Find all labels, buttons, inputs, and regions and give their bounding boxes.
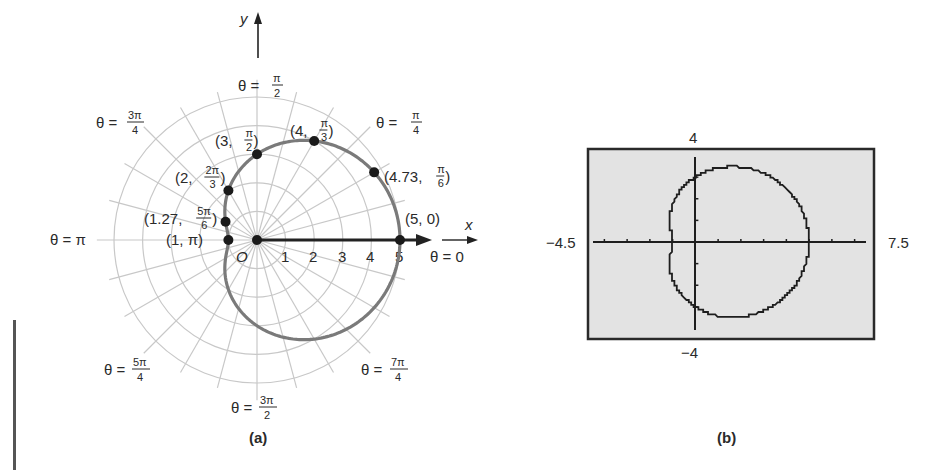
- svg-text:3π: 3π: [128, 109, 142, 121]
- polar-grid-ray: [257, 200, 405, 240]
- polar-grid-ray: [257, 163, 390, 240]
- tick-1: 1: [281, 248, 289, 265]
- svg-text:): ): [445, 168, 450, 185]
- svg-text:θ =: θ =: [361, 361, 383, 378]
- svg-text:θ =: θ =: [376, 114, 398, 131]
- svg-text:7π: 7π: [391, 356, 405, 368]
- point-label: (4,: [290, 122, 308, 139]
- x-axis-label: x: [464, 216, 473, 233]
- figure-svg: y x 1 2 3 4 5 O (5, 0)(4.73, π6)(4, π3)(…: [0, 0, 936, 470]
- point-marker: [221, 217, 231, 227]
- calc-ymin-label: −4: [681, 344, 698, 361]
- margin-bar: [13, 320, 16, 470]
- x-axis-arrowhead: [467, 236, 478, 244]
- caption-b: (b): [717, 429, 736, 446]
- origin-label: O: [236, 248, 248, 265]
- calc-xmax-label: 7.5: [888, 234, 909, 251]
- point-marker: [223, 235, 233, 245]
- svg-text:): ): [212, 210, 217, 227]
- angle-label-pi-over-4: θ = π 4: [376, 109, 422, 136]
- svg-text:π: π: [437, 163, 445, 175]
- svg-text:6: 6: [201, 219, 207, 231]
- svg-text:2: 2: [246, 141, 252, 153]
- point-label: (5, 0): [405, 210, 440, 227]
- svg-text:5π: 5π: [133, 356, 147, 368]
- tick-3: 3: [338, 248, 346, 265]
- angle-label-3pi-over-2: θ = 3π 2: [231, 394, 277, 421]
- calculator-screen: [588, 149, 874, 339]
- polar-graph-panel: y x 1 2 3 4 5 O (5, 0)(4.73, π6)(4, π3)(…: [50, 0, 478, 446]
- svg-text:): ): [220, 169, 225, 186]
- polar-grid-ray: [257, 92, 297, 240]
- figure: y x 1 2 3 4 5 O (5, 0)(4.73, π6)(4, π3)(…: [0, 0, 936, 470]
- point-label: (1, π): [166, 231, 203, 248]
- point-marker: [395, 235, 405, 245]
- plotted-point: (3, π2): [215, 127, 262, 159]
- svg-text:3: 3: [209, 178, 215, 190]
- svg-text:2: 2: [274, 87, 280, 99]
- plotted-point: (1.27, 5π6): [144, 205, 231, 231]
- polar-grid-ray: [257, 240, 297, 388]
- angle-label-pi-over-2: θ = π 2: [238, 72, 283, 99]
- svg-text:3π: 3π: [260, 394, 274, 406]
- pole-point: [252, 235, 262, 245]
- calc-ymax-label: 4: [689, 129, 697, 146]
- point-label: (2,: [175, 169, 193, 186]
- svg-text:π: π: [245, 127, 253, 139]
- tick-4: 4: [366, 248, 374, 265]
- point-marker: [223, 185, 233, 195]
- svg-text:4: 4: [132, 124, 138, 136]
- plotted-point: (2, 2π3): [175, 164, 233, 195]
- polar-axis-arrowhead: [416, 234, 432, 246]
- plotted-point: (4.73, π6): [369, 163, 450, 189]
- point-marker: [369, 167, 379, 177]
- point-marker: [309, 136, 319, 146]
- svg-text:π: π: [412, 109, 420, 121]
- caption-a: (a): [249, 429, 267, 446]
- angle-label-3pi-over-4: θ = 3π 4: [96, 109, 144, 136]
- svg-text:θ =: θ =: [231, 399, 253, 416]
- y-axis-arrowhead: [254, 12, 262, 24]
- polar-grid-ray: [257, 240, 405, 280]
- svg-text:θ =: θ =: [104, 361, 126, 378]
- angle-label-5pi-over-4: θ = 5π 4: [104, 356, 150, 383]
- y-axis-label: y: [239, 10, 249, 27]
- svg-text:θ =: θ =: [238, 77, 260, 94]
- angle-label-0: θ = 0: [430, 248, 464, 265]
- svg-text:π: π: [273, 72, 281, 84]
- point-marker: [252, 149, 262, 159]
- polar-grid-ray: [257, 240, 334, 373]
- tick-2: 2: [309, 248, 317, 265]
- calculator-screen-panel: 4 −4 −4.5 7.5 (b): [546, 129, 909, 446]
- svg-text:2: 2: [264, 409, 270, 421]
- angle-label-7pi-over-4: θ = 7π 4: [361, 356, 408, 383]
- svg-text:6: 6: [438, 177, 444, 189]
- plotted-points: (5, 0)(4.73, π6)(4, π3)(3, π2)(2, 2π3)(1…: [144, 117, 450, 248]
- point-label: (1.27,: [144, 210, 182, 227]
- svg-text:θ =: θ =: [96, 114, 118, 131]
- svg-text:3: 3: [321, 131, 327, 143]
- svg-text:4: 4: [137, 371, 143, 383]
- svg-text:2π: 2π: [205, 164, 219, 176]
- svg-text:): ): [253, 132, 258, 149]
- svg-text:θ = π: θ = π: [50, 231, 86, 248]
- svg-text:θ = 0: θ = 0: [430, 248, 464, 265]
- svg-text:): ): [328, 122, 333, 139]
- svg-text:4: 4: [395, 371, 401, 383]
- svg-text:π: π: [320, 117, 328, 129]
- svg-text:5π: 5π: [197, 205, 211, 217]
- calc-xmin-label: −4.5: [546, 234, 576, 251]
- point-label: (4.73,: [384, 168, 422, 185]
- svg-text:4: 4: [413, 124, 419, 136]
- point-label: (3,: [215, 132, 233, 149]
- angle-label-pi: θ = π: [50, 231, 86, 248]
